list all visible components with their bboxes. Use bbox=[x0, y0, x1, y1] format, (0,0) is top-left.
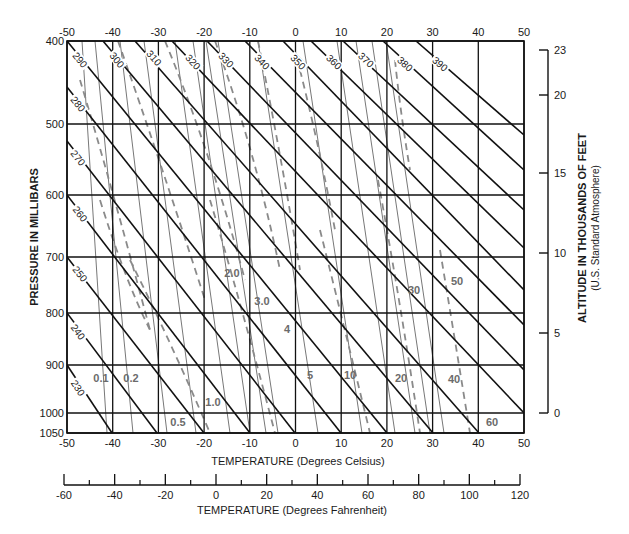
fahrenheit-tick-label: 40 bbox=[311, 489, 323, 501]
altitude-axis: 0510152023 bbox=[539, 44, 566, 419]
fahrenheit-tick-label: 60 bbox=[362, 489, 374, 501]
celsius-tick-label: 50 bbox=[518, 437, 530, 449]
dry-adiabat-line bbox=[245, 41, 524, 325]
mixing-ratio-label: 20 bbox=[395, 372, 407, 384]
altitude-tick-label: 10 bbox=[554, 247, 566, 259]
mixing-ratio-label: 4 bbox=[284, 323, 291, 335]
celsius-tick-label: 40 bbox=[472, 437, 484, 449]
dry-adiabat-line bbox=[172, 41, 524, 413]
celsius-tick-label: 0 bbox=[292, 437, 298, 449]
celsius-tick-label: 10 bbox=[335, 437, 347, 449]
mixing-ratio-label: 50 bbox=[451, 275, 463, 287]
celsius-tick-label: -30 bbox=[150, 26, 166, 38]
thermodynamic-chart: 2302402502602702802903003103203303403503… bbox=[0, 0, 629, 534]
mixing-ratio-label: 0.1 bbox=[93, 372, 108, 384]
top-celsius-axis: -50-40-30-20-1001020304050 bbox=[59, 26, 530, 38]
moist-adiabat-line bbox=[300, 70, 335, 230]
celsius-tick-label: -10 bbox=[242, 26, 258, 38]
x-axis-title-celsius: TEMPERATURE (Degrees Celsius) bbox=[211, 455, 384, 467]
y-axis-title: PRESSURE IN MILLIBARS bbox=[28, 168, 40, 306]
fahrenheit-tick-label: 120 bbox=[511, 489, 529, 501]
mixing-ratio-label: 30 bbox=[408, 284, 420, 296]
dry-adiabat-line bbox=[103, 41, 433, 433]
celsius-tick-label: 10 bbox=[335, 26, 347, 38]
mixing-ratio-label: 1.0 bbox=[205, 396, 220, 408]
moist-adiabat-line bbox=[130, 260, 210, 433]
right-axis-title: ALTITUDE IN THOUSANDS OF FEET bbox=[576, 133, 588, 323]
mixing-ratio-label: 5 bbox=[307, 369, 313, 381]
mixing-ratio-label: 10 bbox=[344, 369, 356, 381]
right-axis-subtitle: (U.S. Standard Atmosphere) bbox=[590, 165, 601, 291]
pressure-tick-label: 700 bbox=[46, 251, 64, 263]
mixing-ratio-label: 2.0 bbox=[224, 267, 239, 279]
pressure-tick-label: 1050 bbox=[40, 427, 64, 439]
celsius-tick-label: 20 bbox=[381, 437, 393, 449]
altitude-tick-label: 5 bbox=[554, 327, 560, 339]
pressure-tick-label: 600 bbox=[46, 189, 64, 201]
x-axis-title-fahrenheit: TEMPERATURE (Degrees Fahrenheit) bbox=[197, 504, 387, 516]
fahrenheit-tick-label: -40 bbox=[107, 489, 123, 501]
fahrenheit-tick-label: 0 bbox=[213, 489, 219, 501]
celsius-tick-label: -40 bbox=[105, 26, 121, 38]
pressure-tick-label: 900 bbox=[46, 359, 64, 371]
altitude-tick-label: 0 bbox=[554, 407, 560, 419]
fahrenheit-tick-label: -60 bbox=[56, 489, 72, 501]
altitude-tick-label: 20 bbox=[554, 89, 566, 101]
dry-adiabat-labels: 2302402502602702802903003103203303403503… bbox=[68, 47, 451, 399]
pressure-tick-label: 500 bbox=[46, 118, 64, 130]
altitude-tick-label: 23 bbox=[554, 44, 566, 56]
celsius-tick-label: -20 bbox=[196, 26, 212, 38]
altitude-tick-label: 15 bbox=[554, 167, 566, 179]
celsius-tick-label: 0 bbox=[292, 26, 298, 38]
pressure-axis: 40050060070080090010001050 bbox=[40, 35, 64, 439]
celsius-tick-label: 40 bbox=[472, 26, 484, 38]
celsius-tick-label: 30 bbox=[426, 437, 438, 449]
celsius-tick-label: -40 bbox=[105, 437, 121, 449]
celsius-tick-label: -30 bbox=[150, 437, 166, 449]
mixing-ratio-label: 3.0 bbox=[254, 295, 269, 307]
celsius-tick-label: 50 bbox=[518, 26, 530, 38]
dry-adiabat-line bbox=[207, 41, 524, 370]
pressure-tick-label: 400 bbox=[46, 35, 64, 47]
celsius-tick-label: 20 bbox=[381, 26, 393, 38]
mixing-ratio-label: 60 bbox=[486, 416, 498, 428]
mixing-ratio-label: 0.5 bbox=[170, 416, 185, 428]
fahrenheit-tick-label: 80 bbox=[413, 489, 425, 501]
celsius-tick-label: -20 bbox=[196, 437, 212, 449]
celsius-tick-label: 30 bbox=[426, 26, 438, 38]
moist-adiabat-line bbox=[378, 180, 420, 433]
mixing-ratio-label: 0.2 bbox=[123, 372, 138, 384]
pressure-tick-label: 1000 bbox=[40, 407, 64, 419]
fahrenheit-tick-label: 100 bbox=[460, 489, 478, 501]
pressure-tick-label: 800 bbox=[46, 307, 64, 319]
mixing-ratio-label: 40 bbox=[448, 373, 460, 385]
celsius-tick-label: -10 bbox=[242, 437, 258, 449]
moist-adiabat-line bbox=[100, 200, 150, 330]
fahrenheit-axis: -60-40-20020406080100120 bbox=[56, 474, 529, 501]
fahrenheit-tick-label: -20 bbox=[157, 489, 173, 501]
bottom-celsius-axis: -50-40-30-20-1001020304050 bbox=[59, 437, 530, 449]
fahrenheit-tick-label: 20 bbox=[261, 489, 273, 501]
